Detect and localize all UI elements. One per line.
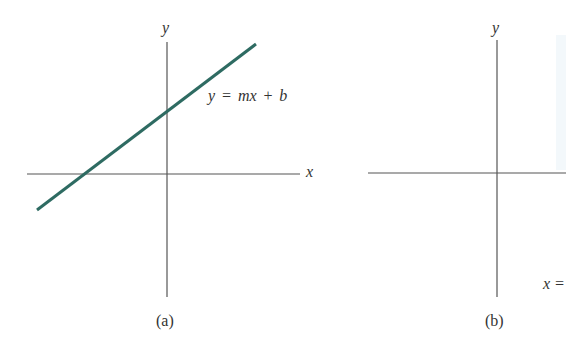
panel-b-y-axis-label: y bbox=[492, 20, 499, 36]
panel-a-x-axis-label: x bbox=[306, 164, 313, 180]
panel-a-line-equation: y = mx + b bbox=[208, 88, 287, 104]
panel-b-partial-label: x = bbox=[543, 276, 565, 292]
panel-b-caption: (b) bbox=[485, 313, 504, 329]
diagram-canvas bbox=[0, 0, 566, 345]
panel-a-line-y-mx-b bbox=[37, 44, 256, 210]
panel-a-caption: (a) bbox=[156, 313, 174, 329]
panel-a-y-axis-label: y bbox=[162, 20, 169, 36]
